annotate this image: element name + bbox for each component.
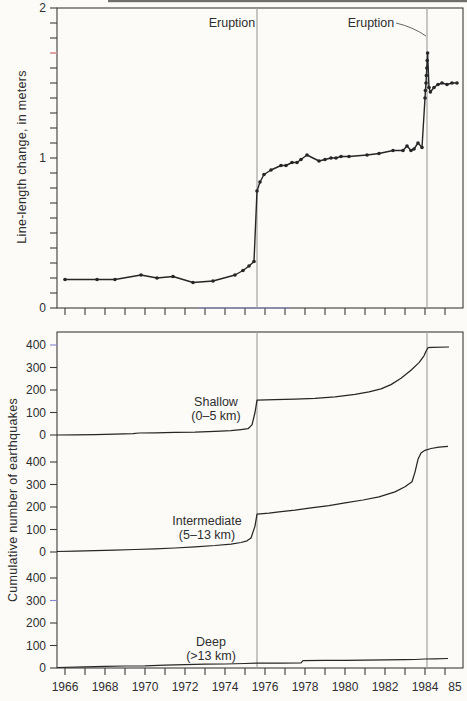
top-x-axis-ticks — [65, 308, 445, 315]
x-tick-label: 1976 — [252, 680, 279, 694]
chart-canvas: EruptionEruption0120100200300400Shallow(… — [0, 0, 467, 701]
data-point-marker — [436, 83, 440, 87]
intermediate-y-ticks: 0100200300400 — [26, 455, 57, 559]
data-point-marker — [155, 276, 159, 280]
data-point-marker — [401, 149, 405, 153]
data-point-marker — [391, 149, 395, 153]
y-tick-label: 0 — [39, 428, 46, 442]
x-tick-label: 1984 — [412, 680, 439, 694]
data-point-marker — [247, 264, 251, 268]
bottom-panel-frame — [57, 332, 463, 668]
x-tick-label: 1982 — [372, 680, 399, 694]
data-point-marker — [269, 168, 273, 172]
data-point-marker — [252, 260, 256, 264]
shallow-series-line — [57, 347, 449, 435]
data-point-marker — [424, 81, 428, 85]
y-tick-label: 300 — [26, 594, 46, 608]
data-point-marker — [432, 86, 436, 90]
volcano-monitoring-figure: EruptionEruption0120100200300400Shallow(… — [0, 0, 467, 701]
data-point-marker — [95, 278, 99, 282]
data-point-marker — [425, 59, 429, 63]
bottom-panel-ylabel: Cumulative number of earthquakes — [6, 398, 20, 602]
data-point-marker — [450, 81, 454, 85]
data-point-marker — [262, 173, 266, 177]
data-point-marker — [305, 153, 309, 157]
data-point-marker — [377, 152, 381, 156]
y-tick-label: 100 — [26, 406, 46, 420]
y-tick-label: 0 — [39, 661, 46, 675]
data-point-marker — [425, 74, 429, 78]
shallow-section-label: Shallow(0–5 km) — [191, 395, 240, 423]
y-tick-label: 300 — [26, 361, 46, 375]
data-point-marker — [445, 83, 449, 87]
eruption-label: Eruption — [348, 16, 395, 30]
x-tick-label: 1980 — [332, 680, 359, 694]
y-tick-label: 0 — [39, 545, 46, 559]
top-y-axis-ticks: 012 — [39, 1, 57, 315]
eruption-label: Eruption — [209, 16, 256, 30]
y-tick-label: 100 — [26, 523, 46, 537]
data-point-marker — [365, 153, 369, 157]
data-point-marker — [412, 147, 416, 151]
x-tick-label: 1966 — [52, 680, 79, 694]
data-point-marker — [425, 66, 429, 70]
y-tick-label: 100 — [26, 639, 46, 653]
data-point-marker — [211, 279, 215, 283]
data-point-marker — [440, 81, 444, 85]
data-point-marker — [241, 269, 245, 273]
data-point-marker — [191, 281, 195, 285]
data-point-marker — [139, 273, 143, 277]
y-tick-label: 400 — [26, 338, 46, 352]
data-point-marker — [420, 146, 424, 150]
data-point-marker — [284, 164, 288, 168]
deep-series-line — [57, 659, 448, 668]
top-panel-frame — [57, 8, 463, 308]
x-tick-label: 1968 — [92, 680, 119, 694]
line-length-series-markers — [63, 51, 459, 284]
intermediate-section-label: Intermediate(5–13 km) — [172, 514, 242, 542]
data-point-marker — [329, 156, 333, 160]
top-panel-ylabel: Line-length change, in meters — [15, 70, 29, 243]
x-tick-label: 1974 — [212, 680, 239, 694]
y-tick-label: 0 — [39, 301, 46, 315]
data-point-marker — [233, 273, 237, 277]
y-tick-label: 200 — [26, 383, 46, 397]
y-tick-label: 200 — [26, 500, 46, 514]
y-tick-label: 400 — [26, 455, 46, 469]
y-tick-label: 400 — [26, 571, 46, 585]
x-tick-label: 1972 — [172, 680, 199, 694]
x-tick-label: 1978 — [292, 680, 319, 694]
data-point-marker — [347, 155, 351, 159]
data-point-marker — [290, 161, 294, 165]
data-point-marker — [63, 278, 67, 282]
data-point-marker — [299, 158, 303, 162]
data-point-marker — [279, 164, 283, 168]
data-point-marker — [427, 86, 431, 90]
scan-edge-artifact — [108, 0, 467, 2]
data-point-marker — [171, 275, 175, 279]
deep-section-label: Deep(>13 km) — [186, 635, 236, 663]
data-point-marker — [455, 81, 459, 85]
data-point-marker — [423, 96, 427, 100]
y-tick-label: 300 — [26, 478, 46, 492]
intermediate-series-line — [57, 446, 448, 551]
data-point-marker — [113, 278, 117, 282]
line-length-series-line — [65, 53, 457, 283]
y-tick-label: 200 — [26, 616, 46, 630]
data-point-marker — [429, 90, 433, 94]
data-point-marker — [424, 89, 428, 93]
shallow-y-ticks: 0100200300400 — [26, 338, 57, 442]
y-tick-label: 1 — [39, 151, 46, 165]
y-tick-label: 2 — [39, 1, 46, 15]
eruption-pointer-line — [396, 23, 426, 36]
x-tick-label: 85 — [448, 680, 462, 694]
x-tick-label: 1970 — [132, 680, 159, 694]
data-point-marker — [323, 158, 327, 162]
data-point-marker — [317, 159, 321, 163]
data-point-marker — [405, 144, 409, 148]
data-point-marker — [339, 155, 343, 159]
data-point-marker — [416, 141, 420, 145]
data-point-marker — [258, 180, 262, 184]
data-point-marker — [255, 189, 259, 193]
data-point-marker — [426, 51, 430, 55]
